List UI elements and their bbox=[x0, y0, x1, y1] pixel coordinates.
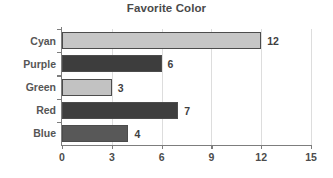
x-tick-label: 3 bbox=[109, 151, 115, 163]
y-tick-mark bbox=[57, 52, 61, 53]
bar-red[interactable] bbox=[62, 102, 178, 119]
bar-row[interactable]: 3 bbox=[62, 79, 311, 96]
x-tick-mark bbox=[311, 145, 312, 149]
x-tick-mark bbox=[112, 145, 113, 149]
bar-value-label: 4 bbox=[134, 129, 140, 140]
bar-purple[interactable] bbox=[62, 55, 162, 72]
bar-row[interactable]: 7 bbox=[62, 102, 311, 119]
x-tick-label: 9 bbox=[208, 151, 214, 163]
category-label-green: Green bbox=[2, 82, 56, 93]
bar-green[interactable] bbox=[62, 79, 112, 96]
x-tick-label: 15 bbox=[305, 151, 317, 163]
category-label-blue: Blue bbox=[2, 128, 56, 139]
category-label-cyan: Cyan bbox=[2, 36, 56, 47]
bar-chart: Favorite Color 126374 03691215 CyanPurpl… bbox=[0, 0, 333, 178]
y-tick-mark bbox=[57, 122, 61, 123]
plot-area: 126374 bbox=[62, 29, 311, 145]
bar-blue[interactable] bbox=[62, 125, 128, 142]
bar-value-label: 7 bbox=[184, 106, 190, 117]
chart-title: Favorite Color bbox=[0, 2, 333, 14]
x-tick-label: 6 bbox=[159, 151, 165, 163]
bar-row[interactable]: 4 bbox=[62, 125, 311, 142]
bar-value-label: 6 bbox=[168, 59, 174, 70]
bar-value-label: 12 bbox=[267, 36, 279, 47]
category-label-red: Red bbox=[2, 105, 56, 116]
x-tick-mark bbox=[211, 145, 212, 149]
y-tick-mark bbox=[57, 99, 61, 100]
category-label-purple: Purple bbox=[2, 59, 56, 70]
x-tick-label: 12 bbox=[255, 151, 267, 163]
bar-row[interactable]: 12 bbox=[62, 32, 311, 49]
gridline bbox=[311, 29, 312, 145]
x-tick-mark bbox=[62, 145, 63, 149]
bar-value-label: 3 bbox=[118, 83, 124, 94]
x-tick-label: 0 bbox=[59, 151, 65, 163]
x-tick-mark bbox=[261, 145, 262, 149]
y-tick-mark bbox=[57, 29, 61, 30]
x-tick-mark bbox=[162, 145, 163, 149]
bar-cyan[interactable] bbox=[62, 32, 261, 49]
y-tick-mark bbox=[57, 75, 61, 76]
bar-row[interactable]: 6 bbox=[62, 55, 311, 72]
